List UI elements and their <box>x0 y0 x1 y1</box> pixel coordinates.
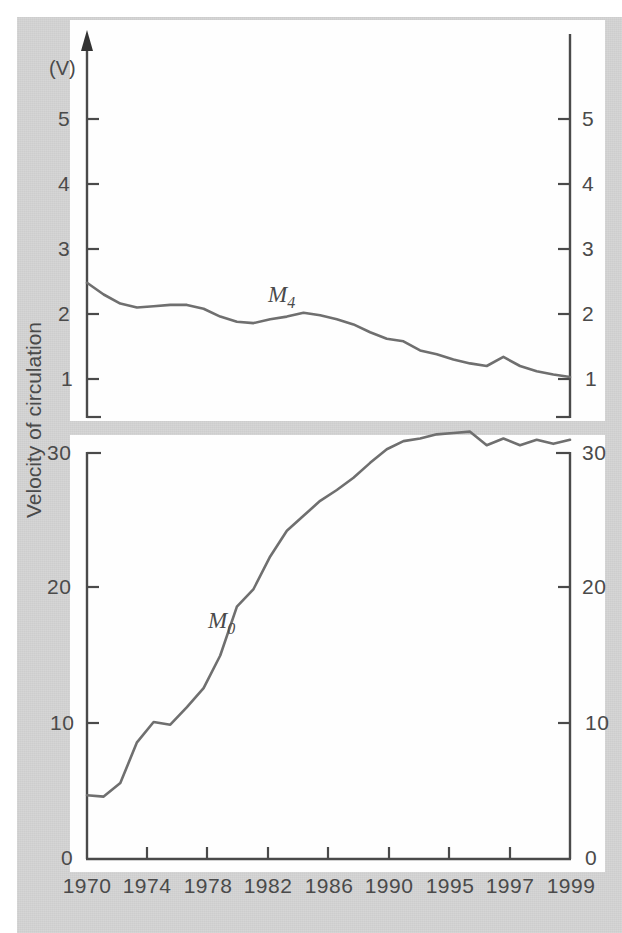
x-tick-1997: 1997 <box>480 874 540 898</box>
lower-right-axis <box>556 452 570 859</box>
m0-series-label: M0 <box>208 608 235 638</box>
lower-left-axis <box>87 452 101 859</box>
y-tick-upper-right-4: 4 <box>582 172 594 196</box>
x-tick-1995: 1995 <box>420 874 480 898</box>
y-tick-lower-right-20: 20 <box>582 575 606 599</box>
x-tick-1990: 1990 <box>359 874 419 898</box>
y-tick-upper-left-1: 1 <box>61 367 73 391</box>
m4-label-subscript: 4 <box>287 294 295 311</box>
x-tick-1974: 1974 <box>117 874 177 898</box>
x-tick-1978: 1978 <box>178 874 238 898</box>
x-tick-1999: 1999 <box>541 874 601 898</box>
y-tick-upper-right-2: 2 <box>582 302 594 326</box>
y-tick-upper-right-1: 1 <box>585 367 597 391</box>
y-tick-upper-left-4: 4 <box>58 172 70 196</box>
y-tick-upper-left-3: 3 <box>58 237 70 261</box>
y-tick-upper-left-2: 2 <box>58 302 70 326</box>
m4-series-line <box>87 283 570 377</box>
upper-right-axis <box>556 34 570 418</box>
y-tick-upper-right-3: 3 <box>582 237 594 261</box>
y-axis-unit-label: (V) <box>49 57 76 80</box>
y-axis-title: Velocity of circulation <box>22 300 46 540</box>
x-tick-1986: 1986 <box>299 874 359 898</box>
m0-label-text: M <box>208 608 227 633</box>
y-tick-lower-left-0: 0 <box>61 846 73 870</box>
y-tick-lower-right-10: 10 <box>585 711 609 735</box>
x-tick-1970: 1970 <box>57 874 117 898</box>
y-tick-lower-right-30: 30 <box>582 441 606 465</box>
y-tick-lower-left-30: 30 <box>47 441 71 465</box>
m0-label-subscript: 0 <box>227 620 235 637</box>
y-tick-upper-left-5: 5 <box>58 107 70 131</box>
y-tick-lower-left-10: 10 <box>50 711 74 735</box>
m4-series-label: M4 <box>268 282 295 312</box>
x-axis <box>86 847 571 859</box>
upper-left-axis <box>81 30 101 418</box>
y-tick-lower-right-0: 0 <box>585 846 597 870</box>
chart-canvas <box>0 0 622 933</box>
m0-series-line <box>87 432 570 797</box>
y-tick-upper-right-5: 5 <box>582 107 594 131</box>
y-tick-lower-left-20: 20 <box>47 575 71 599</box>
m4-label-text: M <box>268 282 287 307</box>
x-tick-1982: 1982 <box>238 874 298 898</box>
